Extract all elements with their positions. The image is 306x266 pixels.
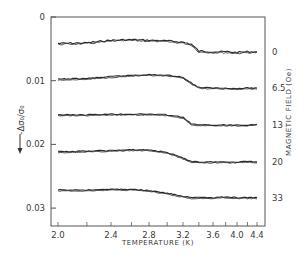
series-line-6-5 [58, 74, 257, 89]
y-axis: 00.010.020.03 [26, 12, 56, 213]
x-tick-label: 4.0 [230, 230, 244, 240]
series-label: 20 [272, 157, 283, 167]
y-tick-label: 0.02 [26, 139, 45, 149]
series-label: 0 [272, 47, 277, 57]
y-tick-label: 0.03 [26, 203, 45, 213]
series-line-33 [58, 189, 257, 198]
x-axis: 2.02.42.83.23.64.04.4 [51, 222, 264, 240]
series-line-20 [58, 150, 257, 163]
down-arrow-icon [18, 134, 23, 154]
series-line-6-5 [58, 75, 257, 90]
series-label: 13 [272, 120, 283, 130]
x-tick-label: 4.4 [250, 230, 264, 240]
plot-border [51, 17, 265, 226]
series-label: 6.5 [272, 83, 286, 93]
chart-figure: 00.010.020.03 2.02.42.83.23.64.04.4 06.5… [0, 0, 306, 266]
x-axis-title: TEMPERATURE (K) [121, 239, 194, 247]
data-series [58, 39, 257, 199]
y-tick-label: 0 [40, 12, 45, 22]
right-axis-title: MAGNETIC FIELD (Oe) [285, 68, 293, 156]
right-axis-title-group: MAGNETIC FIELD (Oe) [285, 68, 293, 156]
plot-frame [51, 17, 265, 226]
series-labels: 06.5132033 [272, 47, 286, 203]
series-line-0 [58, 39, 257, 53]
x-tick-label: 3.6 [206, 230, 220, 240]
x-tick-label: 2.0 [51, 230, 65, 240]
series-label: 33 [272, 193, 283, 203]
y-axis-title-group: -Δσ₀/σ₀ [16, 105, 26, 135]
series-line-13 [58, 115, 257, 127]
y-axis-title: -Δσ₀/σ₀ [16, 105, 26, 135]
x-tick-label: 2.4 [104, 230, 118, 240]
y-tick-label: 0.01 [26, 76, 45, 86]
